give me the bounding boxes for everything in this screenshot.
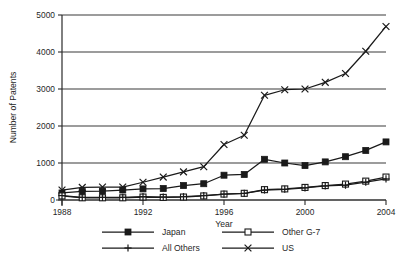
patents-by-region-line-chart: 0100020003000400050001988199219962000200… — [0, 0, 405, 264]
x-axis-title: Year — [215, 219, 233, 229]
data-point — [383, 139, 389, 145]
x-tick-label-2000: 2000 — [296, 207, 315, 217]
data-point — [363, 147, 369, 153]
data-point — [181, 183, 187, 189]
chart-canvas: 0100020003000400050001988199219962000200… — [0, 0, 405, 264]
data-point — [140, 186, 146, 192]
legend-marker-open-square — [245, 229, 251, 235]
legend-item-japan: Japan — [102, 227, 186, 237]
data-point — [221, 172, 227, 178]
data-point — [201, 181, 207, 187]
data-point — [302, 163, 308, 169]
x-tick-label-2004: 2004 — [377, 207, 396, 217]
data-point — [262, 156, 268, 162]
legend-item-other-g-7: Other G-7 — [222, 227, 320, 237]
data-point — [120, 187, 126, 193]
legend-label: Other G-7 — [282, 227, 320, 237]
y-axis-title: Number of Patents — [8, 72, 18, 144]
legend-marker-filled-square — [125, 229, 131, 235]
series-path — [62, 26, 386, 190]
legend-label: Japan — [162, 227, 186, 237]
y-tick-label-0: 0 — [50, 195, 55, 205]
y-tick-label-1000: 1000 — [36, 158, 55, 168]
legend-item-all-others: All Others — [102, 243, 200, 253]
x-tick-label-1992: 1992 — [134, 207, 153, 217]
data-point — [282, 160, 288, 166]
y-tick-label-5000: 5000 — [36, 10, 55, 20]
data-point — [322, 159, 328, 165]
data-point — [241, 171, 247, 177]
legend-label: US — [282, 243, 294, 253]
legend-label: All Others — [162, 243, 200, 253]
y-tick-label-4000: 4000 — [36, 47, 55, 57]
x-tick-label-1996: 1996 — [215, 207, 234, 217]
y-tick-label-2000: 2000 — [36, 121, 55, 131]
x-tick-label-1988: 1988 — [53, 207, 72, 217]
series-all-others — [58, 175, 389, 201]
data-point — [160, 186, 166, 192]
y-tick-label-3000: 3000 — [36, 84, 55, 94]
series-us — [59, 23, 390, 193]
chart-legend: JapanOther G-7All OthersUS — [102, 227, 320, 253]
legend-item-us: US — [222, 243, 294, 253]
x-axis-ticks — [62, 200, 386, 205]
data-point — [343, 154, 349, 160]
